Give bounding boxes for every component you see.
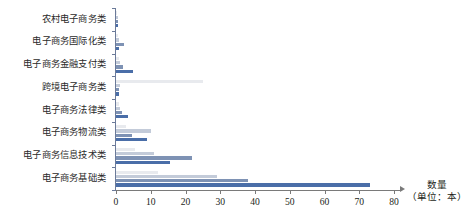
bar bbox=[116, 156, 192, 159]
bar bbox=[116, 179, 248, 182]
category-label: 电子商务法律类 bbox=[0, 99, 110, 122]
bar-group bbox=[116, 54, 394, 77]
x-tick-label: 20 bbox=[181, 196, 191, 207]
bar-row bbox=[116, 11, 394, 14]
bar-row bbox=[116, 152, 394, 155]
bar-row bbox=[116, 47, 394, 50]
bar-row bbox=[116, 107, 394, 110]
bar bbox=[116, 161, 170, 164]
bar-row bbox=[116, 61, 394, 64]
bar-row bbox=[116, 179, 394, 182]
bar bbox=[116, 57, 119, 60]
x-tick bbox=[359, 190, 360, 194]
bar-group bbox=[116, 99, 394, 122]
x-axis-line bbox=[115, 190, 401, 191]
bar bbox=[116, 92, 119, 95]
bar-row bbox=[116, 161, 394, 164]
bar bbox=[116, 111, 122, 114]
category-label: 农村电子商务类 bbox=[0, 8, 110, 31]
bar-row bbox=[116, 148, 394, 151]
bar-row bbox=[116, 88, 394, 91]
x-tick bbox=[116, 190, 117, 194]
bar bbox=[116, 34, 118, 37]
bar-row bbox=[116, 34, 394, 37]
bar-row bbox=[116, 175, 394, 178]
x-tick bbox=[151, 190, 152, 194]
bar bbox=[116, 115, 128, 118]
x-axis-title-unit: （单位：本） bbox=[404, 191, 470, 203]
bar-row bbox=[116, 24, 394, 27]
x-tick-label: 70 bbox=[354, 196, 364, 207]
x-tick bbox=[290, 190, 291, 194]
bar-row bbox=[116, 38, 394, 41]
x-tick-label: 50 bbox=[285, 196, 295, 207]
x-tick bbox=[220, 190, 221, 194]
bar bbox=[116, 138, 147, 141]
category-label: 电子商务信息技术类 bbox=[0, 145, 110, 168]
bar-row bbox=[116, 84, 394, 87]
x-tick-label: 80 bbox=[389, 196, 399, 207]
bar-row bbox=[116, 102, 394, 105]
bar-row bbox=[116, 156, 394, 159]
bar bbox=[116, 171, 158, 174]
category-label: 电子商务基础类 bbox=[0, 167, 110, 190]
x-tick-label: 40 bbox=[250, 196, 260, 207]
bar bbox=[116, 24, 118, 27]
bar-chart: 农村电子商务类 电子商务国际化类 电子商务金融支付类 跨境电子商务类 电子商务法… bbox=[0, 0, 470, 223]
bar-row bbox=[116, 129, 394, 132]
x-tick-label: 0 bbox=[114, 196, 119, 207]
x-tick-label: 10 bbox=[146, 196, 156, 207]
x-tick bbox=[325, 190, 326, 194]
bar bbox=[116, 43, 124, 46]
x-axis-title-main: 数量 bbox=[404, 179, 470, 191]
bar bbox=[116, 65, 123, 68]
category-label: 跨境电子商务类 bbox=[0, 76, 110, 99]
bar-row bbox=[116, 134, 394, 137]
bar-row bbox=[116, 70, 394, 73]
x-tick bbox=[394, 190, 395, 194]
bar bbox=[116, 134, 132, 137]
bar-row bbox=[116, 183, 394, 186]
bar-group bbox=[116, 167, 394, 190]
bar-row bbox=[116, 57, 394, 60]
bar-row bbox=[116, 138, 394, 141]
bar bbox=[116, 88, 119, 91]
x-tick-label: 30 bbox=[215, 196, 225, 207]
bar-row bbox=[116, 92, 394, 95]
bar bbox=[116, 129, 151, 132]
bar bbox=[116, 148, 135, 151]
bar-group bbox=[116, 76, 394, 99]
bar bbox=[116, 183, 370, 186]
bar bbox=[116, 152, 154, 155]
bar bbox=[116, 16, 118, 19]
bar bbox=[116, 125, 126, 128]
x-axis-title: 数量 （单位：本） bbox=[404, 179, 470, 202]
category-axis-labels: 农村电子商务类 电子商务国际化类 电子商务金融支付类 跨境电子商务类 电子商务法… bbox=[0, 8, 110, 190]
bar bbox=[116, 84, 120, 87]
x-tick bbox=[255, 190, 256, 194]
bar bbox=[116, 38, 119, 41]
bar-group bbox=[116, 8, 394, 31]
x-tick bbox=[186, 190, 187, 194]
bar-row bbox=[116, 125, 394, 128]
bar bbox=[116, 70, 133, 73]
bar bbox=[116, 175, 217, 178]
plot-area: 01020304050607080 bbox=[116, 8, 394, 190]
category-label: 电子商务国际化类 bbox=[0, 31, 110, 54]
bar-row bbox=[116, 16, 394, 19]
bar bbox=[116, 47, 119, 50]
bar-group bbox=[116, 31, 394, 54]
bar-row bbox=[116, 115, 394, 118]
bar bbox=[116, 11, 117, 14]
bar-row bbox=[116, 43, 394, 46]
bar bbox=[116, 102, 119, 105]
bar-row bbox=[116, 111, 394, 114]
bar bbox=[116, 61, 120, 64]
x-tick-label: 60 bbox=[320, 196, 330, 207]
bar-group bbox=[116, 145, 394, 168]
bar-row bbox=[116, 65, 394, 68]
bar bbox=[116, 20, 118, 23]
bar bbox=[116, 80, 203, 83]
bar-group bbox=[116, 122, 394, 145]
category-label: 电子商务金融支付类 bbox=[0, 54, 110, 77]
